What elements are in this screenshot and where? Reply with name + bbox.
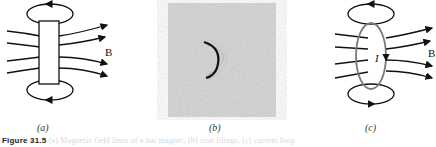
panel-label-c: (c) — [365, 122, 376, 133]
current-loop-diagram: I B — [290, 0, 436, 120]
panel-c-current-loop: I B — [290, 0, 436, 120]
caption-text: (a) Magnetic field lines of a bar magnet… — [49, 136, 295, 145]
current-label-i: I — [374, 52, 380, 64]
figure-caption: Figure 31.5 (a) Magnetic field lines of … — [2, 136, 295, 145]
panel-label-b: (b) — [209, 122, 221, 133]
panel-label-a: (a) — [37, 122, 49, 133]
bar-magnet-diagram: B — [0, 0, 145, 120]
field-label-b: B — [428, 47, 435, 59]
bottom-field-loop — [348, 84, 394, 104]
field-label-b: B — [105, 46, 112, 58]
bar-magnet — [39, 21, 59, 84]
current-loop — [356, 23, 386, 89]
iron-filings-photo — [145, 0, 290, 120]
panel-a-bar-magnet: B — [0, 0, 145, 120]
figure-number: Figure 31.5 — [2, 136, 46, 145]
top-field-loop — [348, 4, 394, 24]
panel-b-iron-filings-photo — [145, 0, 290, 120]
